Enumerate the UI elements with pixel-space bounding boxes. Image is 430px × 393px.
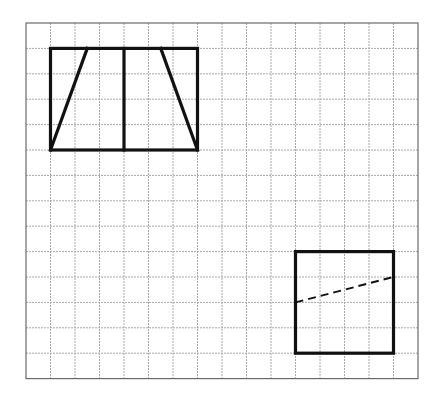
grid-diagram: [0, 0, 430, 393]
grid-lines: [26, 23, 418, 379]
dashed-cut-line: [296, 277, 394, 302]
